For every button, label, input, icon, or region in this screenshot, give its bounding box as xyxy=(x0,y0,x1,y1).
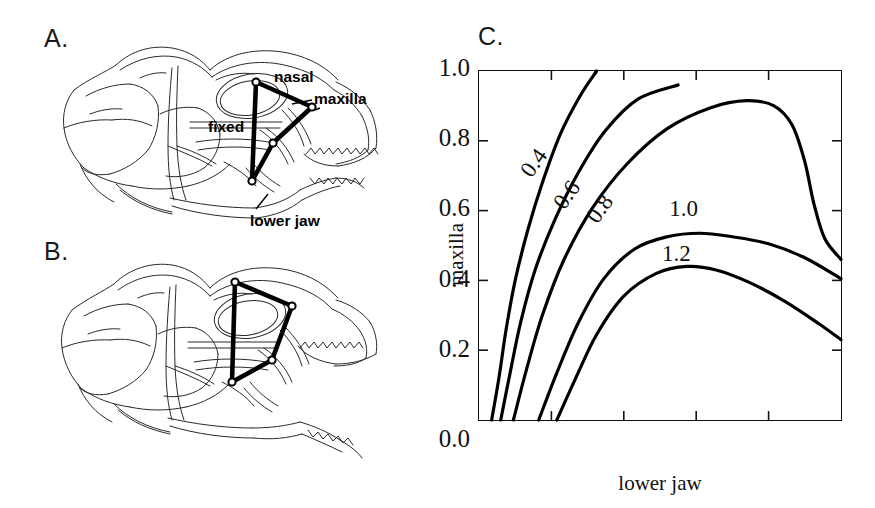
annotation-nasal: nasal xyxy=(274,68,314,86)
y-tick-label: 0.0 xyxy=(418,425,470,453)
contour-path-1.2 xyxy=(557,266,841,420)
figure-root: A. xyxy=(0,0,875,508)
annotation-lower-jaw: lower jaw xyxy=(250,212,320,230)
skull-outline-b xyxy=(61,264,376,458)
panel-b-skull-diagram xyxy=(8,232,408,464)
y-tick-label: 1.0 xyxy=(418,54,470,82)
plot-frame xyxy=(478,70,842,421)
annotation-maxilla: maxilla xyxy=(314,90,367,108)
y-tick-label: 0.2 xyxy=(418,335,470,363)
panel-c-contour-plot: 1.00.80.60.40.20.0 0.40.60.81.01.2 maxil… xyxy=(430,10,875,508)
annotation-fixed: fixed xyxy=(208,118,244,136)
axis-ticks xyxy=(479,71,841,420)
y-tick-label: 0.6 xyxy=(418,194,470,222)
x-axis-title: lower jaw xyxy=(478,471,842,496)
panel-c-label: C. xyxy=(478,22,504,51)
y-axis-title: maxilla xyxy=(444,223,469,286)
contour-lines-group xyxy=(479,71,841,420)
link-maxilla-b xyxy=(272,306,292,360)
link-nasal-b xyxy=(235,282,292,306)
four-bar-linkage-a xyxy=(252,82,312,181)
contour-label-1.0: 1.0 xyxy=(669,196,698,222)
y-tick-label: 0.8 xyxy=(418,124,470,152)
link-fixed-b xyxy=(232,282,235,382)
contour-label-1.2: 1.2 xyxy=(662,241,691,267)
link-lowerjaw-b xyxy=(232,360,272,382)
